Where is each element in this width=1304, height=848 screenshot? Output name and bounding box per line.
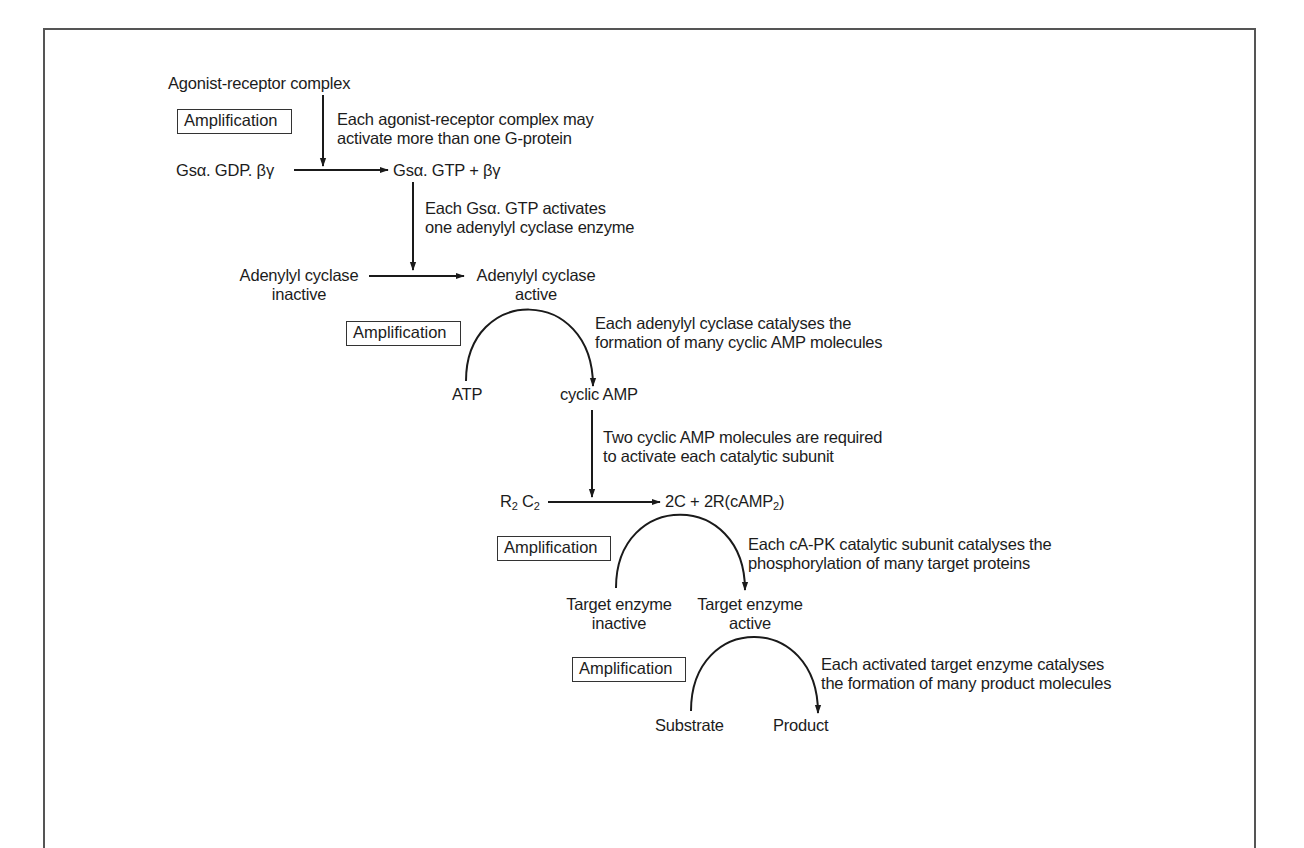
substrate-label: Substrate [655, 716, 724, 735]
note-step5-line1: Each cA-PK catalytic subunit catalyses t… [748, 535, 1051, 554]
pk-active-suffix: ) [779, 492, 784, 510]
note-step2-line1: Each Gsα. GTP activates [425, 199, 606, 218]
gs-gtp-label: Gsα. GTP + βγ [393, 161, 500, 180]
target-active-line1: Target enzyme [692, 595, 808, 614]
amplification-box-4: Amplification [572, 657, 686, 682]
note-step6-line2: the formation of many product molecules [821, 674, 1111, 693]
amplification-box-3: Amplification [497, 536, 611, 561]
agonist-receptor-complex-label: Agonist-receptor complex [168, 74, 350, 93]
note-step3-line1: Each adenylyl cyclase catalyses the [595, 314, 851, 333]
product-label: Product [773, 716, 828, 735]
adenylyl-cyclase-inactive: Adenylyl cyclase inactive [232, 266, 366, 304]
target-inactive-line2: inactive [561, 614, 677, 633]
r2c2-c: C [518, 492, 534, 510]
target-enzyme-inactive: Target enzyme inactive [561, 595, 677, 633]
atp-label: ATP [452, 385, 482, 404]
note-step1-line2: activate more than one G-protein [337, 129, 572, 148]
gs-gdp-label: Gsα. GDP. βγ [176, 161, 274, 180]
r2c2-r: R [500, 492, 512, 510]
target-enzyme-active: Target enzyme active [692, 595, 808, 633]
amplification-box-1: Amplification [177, 109, 292, 134]
amplification-box-2: Amplification [346, 321, 461, 346]
note-step4-line1: Two cyclic AMP molecules are required [603, 428, 882, 447]
pk-active-prefix: 2C + 2R(cAMP [665, 492, 773, 510]
adenylyl-cyclase-active: Adenylyl cyclase active [469, 266, 603, 304]
r2c2-c-sub: 2 [534, 500, 540, 512]
target-inactive-line1: Target enzyme [561, 595, 677, 614]
cyclic-amp-label: cyclic AMP [560, 385, 638, 404]
r2c2-label: R2 C2 [500, 492, 540, 511]
ac-active-line2: active [469, 285, 603, 304]
ac-inactive-line1: Adenylyl cyclase [232, 266, 366, 285]
ac-inactive-line2: inactive [232, 285, 366, 304]
target-active-line2: active [692, 614, 808, 633]
note-step1-line1: Each agonist-receptor complex may [337, 110, 594, 129]
pk-active-label: 2C + 2R(cAMP2) [665, 492, 784, 511]
note-step4-line2: to activate each catalytic subunit [603, 447, 834, 466]
note-step5-line2: phosphorylation of many target proteins [748, 554, 1030, 573]
note-step2-line2: one adenylyl cyclase enzyme [425, 218, 634, 237]
note-step3-line2: formation of many cyclic AMP molecules [595, 333, 882, 352]
ac-active-line1: Adenylyl cyclase [469, 266, 603, 285]
note-step6-line1: Each activated target enzyme catalyses [821, 655, 1104, 674]
